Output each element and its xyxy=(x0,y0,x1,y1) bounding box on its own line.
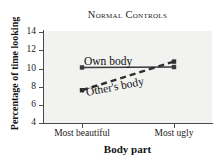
y-axis-line xyxy=(43,30,44,124)
y-tick-label-4: 4 xyxy=(20,117,36,127)
y-tick-label-10: 10 xyxy=(20,63,36,73)
x-tick-label-most-beautiful: Most beautiful xyxy=(42,128,122,138)
y-tick-mark-6 xyxy=(39,105,44,106)
series-label-own-body: Own body xyxy=(84,55,132,67)
chart-title: Normal Controls xyxy=(40,9,215,20)
y-tick-mark-4 xyxy=(39,123,44,124)
y-tick-mark-8 xyxy=(39,87,44,88)
y-tick-label-6: 6 xyxy=(20,99,36,109)
x-tick-label-most-ugly: Most ugly xyxy=(134,128,214,138)
y-tick-mark-14 xyxy=(39,32,44,33)
chart-figure: Normal Controls Percentage of time looki… xyxy=(0,0,223,162)
y-tick-mark-12 xyxy=(39,50,44,51)
y-tick-label-12: 12 xyxy=(20,44,36,54)
y-axis-label: Percentage of time looking xyxy=(9,9,20,139)
y-tick-label-8: 8 xyxy=(20,81,36,91)
y-tick-label-14: 14 xyxy=(20,26,36,36)
x-axis-line xyxy=(43,123,213,124)
y-tick-mark-10 xyxy=(39,69,44,70)
x-axis-label: Body part xyxy=(40,143,215,155)
